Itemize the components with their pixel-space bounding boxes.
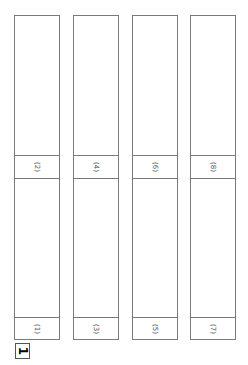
panel-8 [191,16,235,155]
label-cell-8: (8) [191,155,235,179]
panel-4 [74,16,118,155]
panel-label: (5) [151,324,159,334]
panel-3 [74,178,118,317]
panel-label: (8) [209,162,217,172]
label-cell-5: (5) [133,317,177,340]
panel-5 [133,178,177,317]
label-cell-4: (4) [74,155,118,179]
page-number: 1 [17,347,29,355]
column-3: (6) (5) [132,15,178,340]
column-2: (4) (3) [73,15,119,340]
panel-2 [15,16,59,155]
panel-label: (2) [33,162,41,172]
label-cell-1: (1) [15,317,59,340]
panel-1 [15,178,59,317]
panel-label: (7) [209,324,217,334]
column-1: (2) (1) [14,15,60,340]
label-cell-3: (3) [74,317,118,340]
label-cell-7: (7) [191,317,235,340]
label-cell-6: (6) [133,155,177,179]
panel-7 [191,178,235,317]
column-4: (8) (7) [190,15,236,340]
page-number-badge: 1 [15,343,30,359]
panel-label: (3) [92,324,100,334]
label-cell-2: (2) [15,155,59,179]
panel-label: (4) [92,162,100,172]
panel-label: (1) [33,324,41,334]
panel-6 [133,16,177,155]
panel-label: (6) [151,162,159,172]
